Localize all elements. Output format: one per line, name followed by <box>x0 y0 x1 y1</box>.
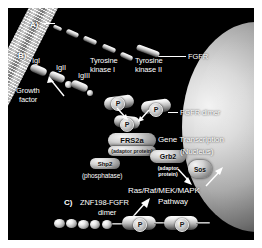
phospho-transfer-arrow-2 <box>136 109 150 123</box>
growth-factor-arrow <box>46 76 68 98</box>
label-growth-factor-line2: factor <box>19 95 37 104</box>
znf198-bead-3 <box>78 220 89 229</box>
section-a-leader <box>44 23 55 24</box>
label-growth-factor-line1: Growth <box>16 86 40 95</box>
label-gene-transcription-line2: (Nucleus) <box>180 147 213 156</box>
phosphate-marker-2: P <box>149 103 163 117</box>
znf198-bead-4 <box>90 220 100 229</box>
znf198-bead-2 <box>66 219 77 228</box>
znf198-linker-3 <box>196 222 210 224</box>
label-znf198-line1: ZNF198-FGFR <box>80 198 129 207</box>
label-pathway-line1: Ras/Raf/MEK/MAPK <box>128 186 200 195</box>
sos-to-pathway-arrow <box>176 168 194 186</box>
section-label-c: C) <box>64 198 72 207</box>
phosphate-marker-5: P <box>175 218 189 232</box>
label-fgfr: FGFR <box>188 52 208 61</box>
diagram-canvas: A) B) IgI IgII IgIII Growth factor Tyros… <box>8 8 254 240</box>
fgfr-dimer-leader <box>168 112 178 113</box>
protein-shp2-name: Shp2 <box>98 161 113 167</box>
label-tyrosine-kinase-2-line1: Tyrosine <box>135 56 163 65</box>
znf198-bead-5 <box>102 220 112 229</box>
label-tyrosine-kinase-1-line1: Tyrosine <box>90 56 118 65</box>
protein-frs2a-role-pill: (adaptor protein) <box>108 146 156 156</box>
nucleus-entry-arrow <box>204 166 224 188</box>
phospho-transfer-arrow-1 <box>116 107 130 121</box>
section-label-b: B) <box>18 51 26 60</box>
section-label-a: A) <box>30 20 38 29</box>
label-ig3: IgIII <box>78 71 90 80</box>
fgfr-leader <box>158 56 186 57</box>
figure-frame: A) B) IgI IgII IgIII Growth factor Tyros… <box>0 0 262 248</box>
label-ig1: IgI <box>32 56 40 65</box>
label-phosphatase: (phosphatase) <box>82 172 122 180</box>
protein-frs2a-role: (adaptor protein) <box>111 148 153 154</box>
znf198-bead-1 <box>54 219 65 228</box>
linker-bead-2 <box>87 90 93 96</box>
protein-grb2-name: Grb2 <box>160 153 176 160</box>
protein-frs2a-name: FRS2a <box>120 136 143 145</box>
label-fgfr-dimer: FGFR dimer <box>180 108 220 117</box>
label-ig2: IgII <box>56 63 66 72</box>
label-gene-transcription-line1: Gene Transcription <box>158 135 224 144</box>
label-znf198-line2: dimer <box>98 208 116 217</box>
label-tyrosine-kinase-1-line2: kinase I <box>90 65 115 74</box>
label-pathway-line2: Pathway <box>158 197 188 206</box>
label-tyrosine-kinase-2-line2: kinase II <box>135 65 162 74</box>
phosphate-marker-4: P <box>133 218 147 232</box>
protein-shp2: Shp2 <box>90 158 120 169</box>
